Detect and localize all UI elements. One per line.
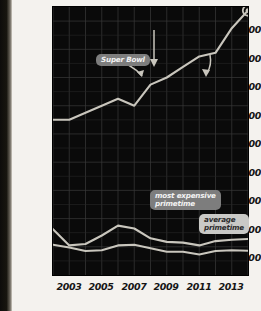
x-axis-label-2011: 2011	[182, 281, 216, 292]
chart-page: 3600000 3200000 2800000 2400000 2000000 …	[0, 0, 261, 311]
line-chart-svg	[53, 7, 248, 275]
x-axis-label-2003: 2003	[52, 281, 86, 292]
x-axis-label-2007: 2007	[117, 281, 151, 292]
endpoint-marker	[243, 7, 248, 16]
average-arrowhead	[202, 69, 210, 77]
annotation-most-expensive-primetime: most expensive primetime	[150, 190, 221, 210]
x-axis-label-2013: 2013	[214, 281, 248, 292]
most-expensive-arrowhead	[150, 59, 158, 67]
annotation-average-primetime: average primetime	[199, 214, 249, 234]
annotation-super-bowl: Super Bowl	[96, 54, 150, 66]
x-axis-label-2005: 2005	[84, 281, 118, 292]
x-axis-label-2009: 2009	[149, 281, 183, 292]
plot-area	[53, 7, 248, 275]
page-edge-shadow	[0, 0, 12, 311]
